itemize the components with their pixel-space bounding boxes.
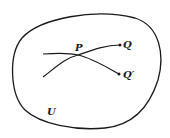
point-q-dot: [119, 44, 122, 47]
label-q: Q: [123, 40, 132, 50]
label-p: P: [75, 43, 83, 53]
region-u-boundary: [13, 14, 161, 129]
label-q-prime: Q′: [123, 70, 134, 80]
label-u: U: [47, 107, 56, 117]
point-q-prime-dot: [118, 73, 121, 76]
curve-to-q-prime: [43, 53, 119, 74]
diagram-canvas: P Q Q′ U: [0, 0, 170, 138]
diagram-svg: [0, 0, 170, 138]
